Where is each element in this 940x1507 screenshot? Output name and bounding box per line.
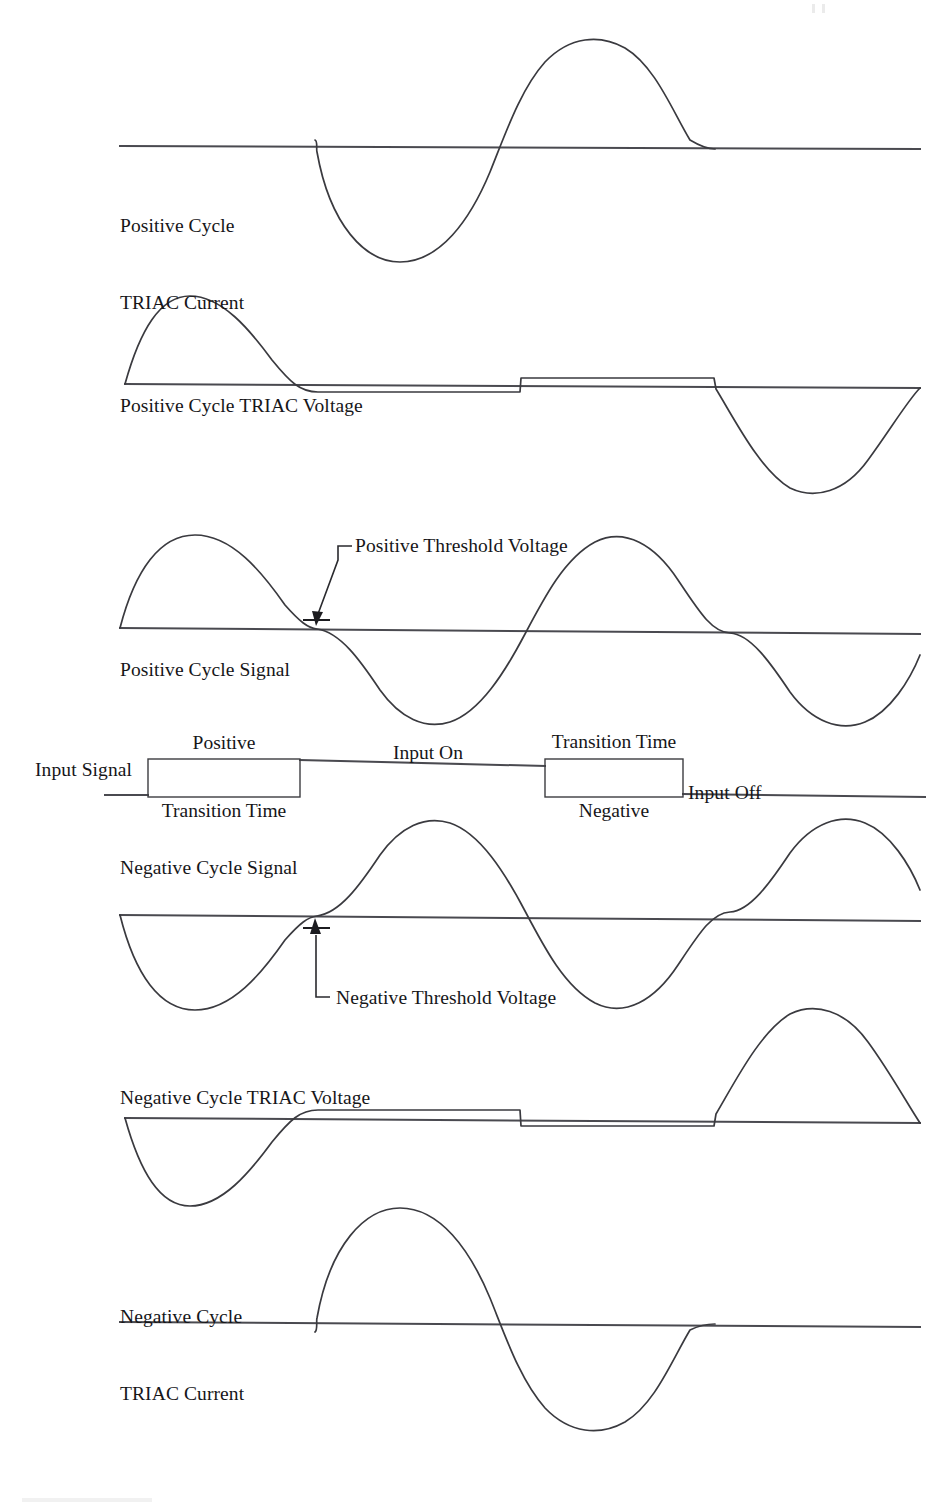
label-positive-threshold-voltage: Positive Threshold Voltage — [355, 533, 568, 558]
axis-line-trace-2 — [125, 384, 920, 388]
label-positive: Positive — [193, 732, 256, 754]
positive-threshold-arrowhead — [312, 611, 323, 626]
waveform-negative-cycle-signal — [120, 819, 920, 1010]
label-positive-cycle-triac-current-line1: Positive Cycle — [120, 213, 244, 239]
axis-line-trace-5 — [120, 915, 920, 921]
scan-artifact-bottom — [22, 1498, 152, 1502]
label-input-signal: Input Signal — [35, 757, 132, 782]
label-negative-cycle-triac-current-line1: Negative Cycle — [120, 1304, 244, 1330]
trace-input-signal — [105, 759, 925, 797]
negative-threshold-arrowhead — [310, 918, 321, 934]
axis-line-trace-3 — [120, 628, 920, 634]
label-negative-cycle-triac-current-line2: TRIAC Current — [120, 1381, 244, 1407]
trace-positive-cycle-signal — [120, 535, 920, 726]
label-negative: Negative — [579, 800, 649, 822]
label-negative-cycle-triac-current: Negative Cycle TRIAC Current — [120, 1253, 244, 1457]
label-negative-cycle-triac-voltage: Negative Cycle TRIAC Voltage — [120, 1085, 370, 1110]
scan-artifact-top-2 — [822, 4, 825, 13]
label-input-off: Input Off — [688, 780, 762, 805]
label-transition-time-left: Transition Time — [162, 800, 286, 822]
axis-line-trace-1 — [120, 146, 920, 149]
waveform-positive-cycle-triac-current — [315, 39, 715, 262]
label-negative-threshold-voltage: Negative Threshold Voltage — [336, 985, 556, 1010]
negative-transition-block-frame — [545, 759, 683, 797]
waveform-negative-cycle-triac-current — [315, 1208, 715, 1431]
axis-line-trace-6 — [125, 1118, 920, 1123]
label-positive-cycle-triac-voltage: Positive Cycle TRIAC Voltage — [120, 393, 363, 418]
figure-root: Positive Cycle TRIAC Current Positive Cy… — [0, 0, 940, 1507]
trace-negative-cycle-signal — [120, 819, 920, 1010]
scan-artifact-top — [812, 4, 815, 13]
positive-threshold-leader — [318, 546, 352, 614]
label-negative-cycle-signal: Negative Cycle Signal — [120, 855, 298, 880]
negative-threshold-leader — [316, 935, 330, 997]
label-input-on: Input On — [393, 742, 463, 764]
label-positive-cycle-triac-current: Positive Cycle TRIAC Current — [120, 162, 244, 366]
label-positive-cycle-triac-current-line2: TRIAC Current — [120, 290, 244, 316]
label-positive-cycle-signal: Positive Cycle Signal — [120, 657, 290, 682]
label-transition-time-right: Transition Time — [552, 731, 676, 753]
positive-transition-block-frame — [148, 759, 300, 797]
